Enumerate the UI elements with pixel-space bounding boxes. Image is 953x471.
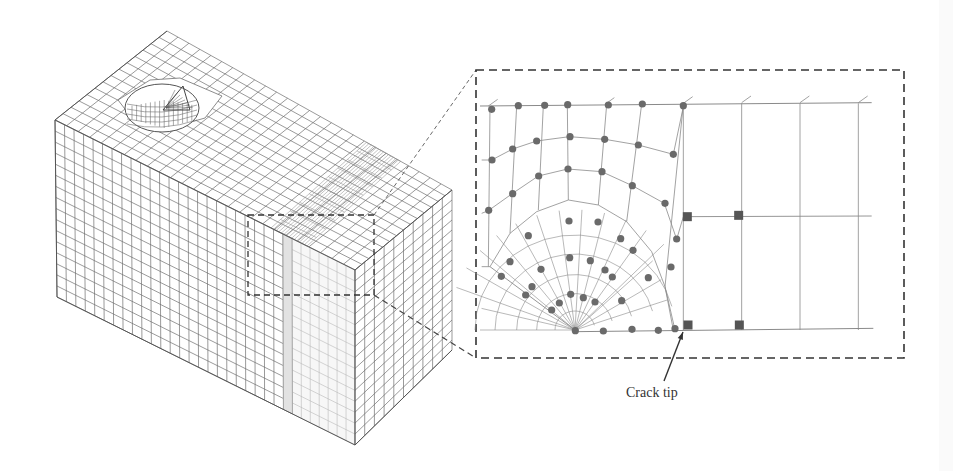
- mesh-node-circle: [564, 165, 571, 172]
- mesh-node-square: [734, 211, 743, 220]
- mesh-node-circle: [629, 182, 636, 189]
- crack-tip-inset: [457, 70, 904, 358]
- mesh-node-circle: [572, 327, 579, 334]
- mesh-node-circle: [556, 299, 563, 306]
- mesh-node-circle: [600, 327, 607, 334]
- mesh-node-circle: [506, 258, 513, 265]
- mesh-node-circle: [594, 218, 601, 225]
- mesh-node-circle: [541, 102, 548, 109]
- mesh-node-circle: [605, 101, 612, 108]
- mesh-node-circle: [566, 254, 573, 261]
- mesh-node-circle: [601, 266, 608, 273]
- mesh-node-circle: [670, 151, 677, 158]
- crack-tip-label: Crack tip: [626, 385, 678, 401]
- mesh-node-circle: [609, 273, 616, 280]
- mesh-node-circle: [639, 100, 646, 107]
- 3d-block-mesh: [55, 31, 452, 445]
- mesh-node-circle: [567, 291, 574, 298]
- mesh-node-circle: [587, 257, 594, 264]
- mesh-node-circle: [617, 235, 624, 242]
- mesh-node-circle: [509, 145, 516, 152]
- mesh-node-circle: [528, 283, 535, 290]
- mesh-node-square: [735, 321, 744, 330]
- mesh-node-circle: [488, 156, 495, 163]
- mesh-node-circle: [635, 141, 642, 148]
- mesh-node-circle: [673, 235, 680, 242]
- fe-mesh-figure: [0, 0, 953, 471]
- mesh-node-square: [683, 212, 692, 221]
- mesh-node-circle: [535, 172, 542, 179]
- mesh-node-circle: [629, 247, 636, 254]
- mesh-node-circle: [488, 106, 495, 113]
- mesh-node-circle: [591, 298, 598, 305]
- mesh-node-circle: [525, 232, 532, 239]
- mesh-node-circle: [509, 190, 516, 197]
- mesh-node-circle: [655, 327, 662, 334]
- page-edge: [939, 0, 953, 471]
- mesh-node-circle: [661, 200, 668, 207]
- mesh-node-circle: [680, 102, 687, 109]
- mesh-node-circle: [667, 263, 674, 270]
- mesh-node-circle: [566, 133, 573, 140]
- mesh-node-circle: [564, 101, 571, 108]
- mesh-node-circle: [533, 137, 540, 144]
- mesh-node-circle: [485, 207, 492, 214]
- mesh-node-circle: [515, 102, 522, 109]
- mesh-node-circle: [628, 326, 635, 333]
- mesh-node-circle: [565, 217, 572, 224]
- mesh-node-circle: [498, 273, 505, 280]
- mesh-node-circle: [671, 325, 678, 332]
- mesh-node-circle: [580, 294, 587, 301]
- mesh-node-circle: [645, 274, 652, 281]
- mesh-node-circle: [601, 136, 608, 143]
- mesh-node-circle: [548, 306, 555, 313]
- mesh-node-square: [684, 321, 693, 330]
- mesh-node-circle: [522, 291, 529, 298]
- mesh-node-circle: [618, 297, 625, 304]
- mesh-node-circle: [598, 168, 605, 175]
- mesh-node-circle: [537, 266, 544, 273]
- figure: Crack tip: [0, 0, 953, 471]
